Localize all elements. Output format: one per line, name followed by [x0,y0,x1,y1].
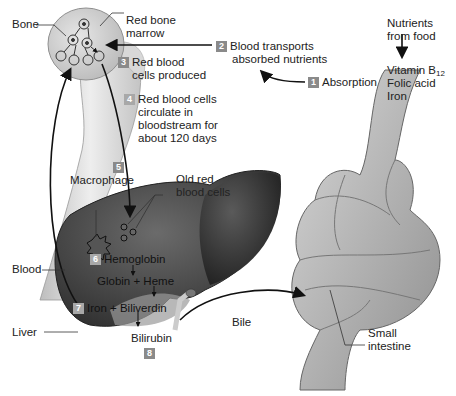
label-small-intestine-1: Small [368,327,397,340]
small-intestine-illustration [292,70,440,390]
step-4-badge: 4 [124,94,135,105]
step-6-badge: 6 [90,254,101,265]
step-3-badge: 3 [118,57,129,68]
label-nutrients-1: Nutrients [387,17,433,30]
label-old-rbc-1: Old red [176,173,214,186]
label-macrophage: Macrophage [70,174,134,187]
label-vitamin-b12: Vitamin B12 [387,64,445,77]
label-old-rbc-2: blood cells [176,186,230,199]
step-4-text-4: about 120 days [138,132,217,145]
step-7-text: Iron + Biliverdin [87,302,167,314]
step-3-text-2: cells produced [132,69,206,82]
step-7-badge: 7 [73,303,84,314]
step-3-text-1: Red blood [132,56,184,68]
step-3: 3Red blood [118,56,184,69]
step-1: 1Absorption [308,76,377,89]
label-nutrients-2: from food [387,30,436,43]
step-1-badge: 1 [308,77,319,88]
step-8-badge: 8 [144,348,155,359]
label-blood: Blood [12,263,41,276]
label-red-bone-marrow-2: marrow [126,27,164,40]
step-6-text: Hemoglobin [104,253,165,265]
step-4-text-3: bloodstream for [138,119,218,132]
label-red-bone-marrow-1: Red bone [126,14,176,27]
label-bone: Bone [12,18,39,31]
label-iron: Iron [387,90,407,103]
label-bilirubin: Bilirubin [131,332,172,345]
step-4-text-2: circulate in [138,106,193,119]
step-1-text: Absorption [322,76,377,88]
step-5-badge: 5 [113,162,124,173]
label-folic-acid: Folic acid [387,77,436,90]
label-globin-heme: Globin + Heme [97,275,174,288]
step-2-text-1: Blood transports [230,40,314,52]
label-small-intestine-2: intestine [368,340,411,353]
step-6: 6Hemoglobin [90,253,165,266]
step-5-badge-wrap: 5 [113,161,127,174]
step-2-badge: 2 [216,41,227,52]
step-4: 4Red blood cells [124,93,217,106]
step-2-text-2: absorbed nutrients [232,53,327,66]
step-2: 2Blood transports [216,40,314,53]
step-4-text-1: Red blood cells [138,93,217,105]
label-bile: Bile [232,316,251,329]
label-liver: Liver [12,326,37,339]
step-7: 7Iron + Biliverdin [73,302,167,315]
step-8-badge-wrap: 8 [144,347,158,360]
